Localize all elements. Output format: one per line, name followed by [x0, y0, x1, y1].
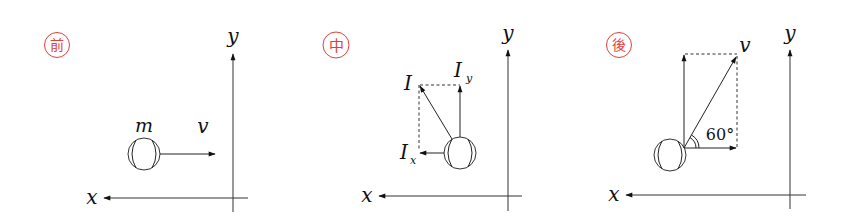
- ball-icon: [654, 139, 686, 171]
- svg-text:I: I: [453, 58, 463, 82]
- mass-label: m: [135, 114, 153, 136]
- ball-icon: [128, 138, 160, 170]
- stage-stamp-after: 後: [607, 33, 632, 58]
- angle-arc-outer: [692, 135, 700, 148]
- impulse-arrow: [420, 86, 452, 139]
- angle-arc-inner: [690, 138, 696, 148]
- panel-before: 前 y x m v: [45, 24, 249, 212]
- impulse-diagram: 前 y x m v 中 y x: [0, 0, 851, 220]
- svg-text:I: I: [399, 140, 409, 164]
- angle-label: 60°: [706, 125, 734, 144]
- stage-stamp-during: 中: [323, 32, 349, 58]
- panel-during: 中 y x I I y I x: [323, 21, 522, 211]
- y-axis-label: y: [501, 21, 514, 45]
- ball-icon: [444, 137, 476, 169]
- stage-stamp-before: 前: [45, 33, 70, 58]
- stage-label: 中: [329, 37, 344, 55]
- impulse-label: I: [403, 71, 413, 95]
- velocity-label: v: [197, 114, 209, 138]
- y-axis-label: y: [783, 21, 796, 45]
- impulse-x-label: I x: [399, 140, 417, 167]
- x-axis-label: x: [361, 183, 372, 207]
- stage-label: 前: [50, 37, 64, 53]
- svg-text:x: x: [410, 154, 417, 167]
- panel-after: 後 y x 60° v: [607, 21, 807, 209]
- stage-label: 後: [612, 37, 626, 53]
- velocity-label: v: [739, 33, 751, 57]
- impulse-y-label: I y: [453, 58, 473, 85]
- y-axis-label: y: [226, 24, 239, 48]
- x-axis-label: x: [86, 185, 97, 209]
- x-axis-label: x: [608, 182, 619, 206]
- svg-text:y: y: [465, 72, 473, 85]
